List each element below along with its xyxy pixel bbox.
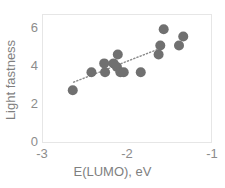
data-point [154,49,164,59]
x-tick-label: -2 [112,146,142,162]
data-point [113,49,123,59]
data-point [178,32,188,42]
x-tick-label: -3 [27,146,57,162]
plot-area [42,14,212,143]
data-point [119,67,129,77]
x-tick-label: -1 [197,146,225,162]
data-point [100,67,110,77]
scatter-chart-figure: Light fastness 6 4 2 0 -3 -2 -1 E(LUMO),… [0,0,225,188]
y-tick-label: 6 [22,21,38,34]
data-point [155,40,165,50]
data-point [159,24,169,34]
data-point [136,67,146,77]
data-points [68,24,189,95]
x-axis-label: E(LUMO), eV [0,164,225,180]
data-point [68,85,78,95]
y-tick-label: 4 [22,59,38,72]
data-point [86,67,96,77]
x-axis-tick-labels: -3 -2 -1 [0,146,225,162]
data-point [99,58,109,68]
data-point [174,40,184,50]
plot-canvas [43,15,213,144]
y-tick-label: 2 [22,97,38,110]
